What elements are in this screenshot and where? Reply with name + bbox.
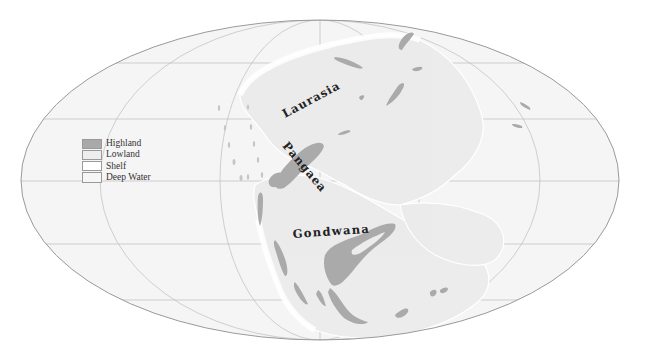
legend-item-highland: Highland xyxy=(82,138,151,149)
highland-swatch xyxy=(82,139,102,149)
legend-label: Highland xyxy=(106,138,141,149)
lowland-swatch xyxy=(82,150,102,160)
legend-item-lowland: Lowland xyxy=(82,149,151,160)
legend-label: Deep Water xyxy=(106,172,151,183)
legend-label: Shelf xyxy=(106,161,126,172)
legend-item-deep-water: Deep Water xyxy=(82,172,151,183)
map-legend: Highland Lowland Shelf Deep Water xyxy=(82,138,151,183)
legend-label: Lowland xyxy=(106,149,140,160)
shelf-swatch xyxy=(82,161,102,171)
legend-item-shelf: Shelf xyxy=(82,161,151,172)
deep-water-swatch xyxy=(82,172,102,182)
